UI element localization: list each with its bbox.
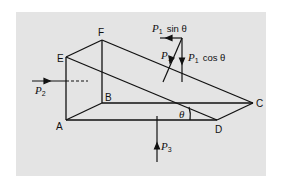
p1-label: P1 xyxy=(160,49,172,62)
p1-cos-arrowhead-icon xyxy=(180,58,185,64)
p1-sin-arrowhead-icon xyxy=(166,36,172,41)
vertex-d-label: D xyxy=(215,124,222,135)
p2-label: P2 xyxy=(34,84,46,97)
wedge-diagram: E F B A D C θ P1sin θ P1 P1cos θ P2 P3 xyxy=(0,0,283,185)
edge-ef xyxy=(66,40,102,57)
edge-dc xyxy=(217,103,253,120)
edge-ed xyxy=(66,57,217,120)
p1-sin-label: P1sin θ xyxy=(151,22,187,35)
vertex-f-label: F xyxy=(98,27,104,38)
angle-arc xyxy=(189,107,190,120)
p3-arrowhead-icon xyxy=(155,143,160,149)
vertex-e-label: E xyxy=(57,53,64,64)
edge-ab xyxy=(66,103,102,120)
vertex-c-label: C xyxy=(256,98,263,109)
p3-label: P3 xyxy=(160,140,172,153)
p3-force-group xyxy=(155,116,160,162)
p2-arrowhead-icon xyxy=(44,79,50,84)
vertex-a-label: A xyxy=(56,121,63,132)
vertex-b-label: B xyxy=(105,92,112,103)
angle-theta-label: θ xyxy=(179,108,185,120)
p2-force-group xyxy=(32,79,88,84)
p1-cos-label: P1cos θ xyxy=(187,51,225,64)
